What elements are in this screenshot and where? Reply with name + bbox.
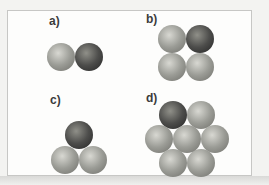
light-sphere [173,125,201,153]
light-sphere [158,25,186,53]
panel-c-label: c) [50,94,61,106]
dark-sphere [75,43,103,71]
light-sphere [47,43,75,71]
dark-sphere [186,25,214,53]
light-sphere [79,146,107,174]
panel-a-label: a) [49,15,60,27]
figure-canvas: a)b)c)d) [0,0,269,185]
panel-d-label: d) [146,92,157,104]
light-sphere [186,53,214,81]
panel-b-label: b) [146,13,157,25]
light-sphere [187,149,215,177]
light-sphere [159,149,187,177]
light-sphere [158,53,186,81]
dark-sphere [65,121,93,149]
light-sphere [51,146,79,174]
sphere-diagram: a)b)c)d) [0,0,269,185]
